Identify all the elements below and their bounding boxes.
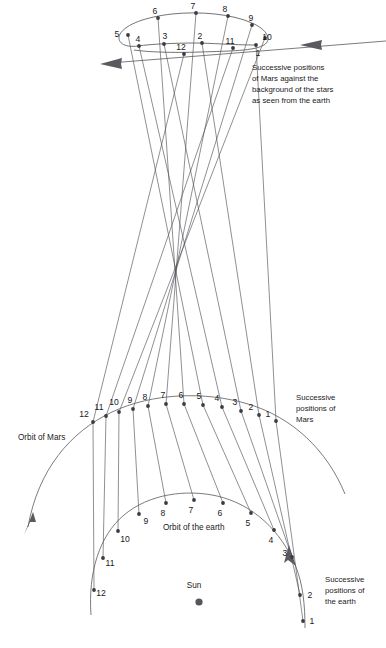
earth-orbit-arc bbox=[91, 493, 305, 628]
earth-caption-line2: positions of bbox=[325, 586, 365, 595]
earth-position-label-7: 7 bbox=[189, 505, 194, 515]
mars-position-dot-12 bbox=[91, 420, 95, 424]
mars-position-label-9: 9 bbox=[128, 395, 133, 405]
mars-position-dot-5 bbox=[201, 403, 205, 407]
mars-position-dot-3 bbox=[239, 409, 243, 413]
star-position-label-7: 7 bbox=[191, 1, 196, 11]
mars-position-label-6: 6 bbox=[179, 390, 184, 400]
star-position-label-10: 10 bbox=[262, 32, 272, 42]
earth-position-label-8: 8 bbox=[161, 508, 166, 518]
star-position-dot-7 bbox=[194, 11, 198, 15]
earth-caption-line1: Successive bbox=[325, 575, 364, 584]
earth-position-label-1: 1 bbox=[310, 616, 315, 626]
earth-position-dot-7 bbox=[192, 498, 196, 502]
star-position-label-5: 5 bbox=[115, 29, 120, 39]
star-line-right-arrow bbox=[300, 40, 322, 50]
mars-position-label-8: 8 bbox=[143, 392, 148, 402]
earth-caption: Successive positions of the earth bbox=[325, 575, 365, 606]
star-position-label-2: 2 bbox=[198, 31, 203, 41]
sight-line-5 bbox=[128, 35, 251, 513]
earth-position-label-4: 4 bbox=[269, 535, 274, 545]
star-position-label-11: 11 bbox=[226, 36, 235, 46]
mars-position-group: 123456789101112 bbox=[79, 390, 278, 424]
mars-position-dot-2 bbox=[257, 413, 261, 417]
sun-label: Sun bbox=[187, 581, 202, 590]
sight-line-4 bbox=[139, 46, 274, 530]
earth-position-group: 123456789101112 bbox=[92, 498, 315, 626]
earth-position-label-5: 5 bbox=[246, 518, 251, 528]
earth-position-label-12: 12 bbox=[96, 588, 106, 598]
mars-position-dot-8 bbox=[146, 404, 150, 408]
orbit-of-mars-label: Orbit of Mars bbox=[18, 433, 65, 442]
star-position-dot-6 bbox=[156, 16, 160, 20]
star-position-dot-11 bbox=[231, 46, 235, 50]
earth-caption-line3: the earth bbox=[325, 597, 356, 606]
earth-position-dot-6 bbox=[221, 501, 225, 505]
mars-position-dot-11 bbox=[104, 414, 108, 418]
sight-line-6 bbox=[158, 18, 223, 503]
star-position-dot-2 bbox=[200, 41, 204, 45]
star-position-dot-12 bbox=[182, 52, 186, 56]
mars-position-label-5: 5 bbox=[197, 391, 202, 401]
star-position-dot-4 bbox=[137, 44, 141, 48]
mars-position-dot-6 bbox=[182, 402, 186, 406]
earth-position-dot-1 bbox=[301, 619, 305, 623]
earth-position-label-6: 6 bbox=[218, 508, 223, 518]
earth-position-label-2: 2 bbox=[308, 590, 313, 600]
mars-position-label-11: 11 bbox=[95, 402, 104, 412]
mars-position-label-1: 1 bbox=[266, 409, 271, 419]
star-position-label-8: 8 bbox=[223, 4, 228, 14]
star-position-dot-3 bbox=[162, 42, 166, 46]
orbit-of-earth-label: Orbit of the earth bbox=[163, 523, 225, 532]
earth-position-dot-3 bbox=[290, 555, 294, 559]
mars-caption-line1: Successive bbox=[296, 393, 335, 402]
retrograde-motion-diagram: 123456789101112 123456789101112 12345678… bbox=[0, 0, 386, 648]
earth-position-label-10: 10 bbox=[120, 534, 130, 544]
mars-position-dot-1 bbox=[274, 419, 278, 423]
star-position-label-9: 9 bbox=[249, 13, 254, 23]
mars-position-label-3: 3 bbox=[233, 397, 238, 407]
star-position-label-12: 12 bbox=[176, 42, 186, 52]
earth-position-dot-11 bbox=[101, 556, 105, 560]
earth-position-dot-5 bbox=[249, 511, 253, 515]
star-position-dot-5 bbox=[126, 33, 130, 37]
stars-caption-line1: Successive positions bbox=[252, 63, 324, 72]
star-position-label-3: 3 bbox=[163, 31, 168, 41]
stars-caption: Successive positions of Mars against the… bbox=[252, 63, 334, 105]
mars-position-label-10: 10 bbox=[109, 397, 119, 407]
sight-line-3 bbox=[164, 44, 292, 557]
earth-position-label-9: 9 bbox=[144, 516, 149, 526]
star-position-dot-1 bbox=[254, 43, 258, 47]
stars-caption-line2: of Mars against the bbox=[252, 74, 318, 83]
earth-position-dot-4 bbox=[272, 528, 276, 532]
mars-position-dot-4 bbox=[220, 405, 224, 409]
mars-position-dot-7 bbox=[164, 402, 168, 406]
mars-position-label-7: 7 bbox=[161, 390, 166, 400]
mars-position-dot-9 bbox=[131, 407, 135, 411]
mars-position-label-4: 4 bbox=[215, 393, 220, 403]
mars-caption: Successive positions of Mars bbox=[296, 393, 336, 424]
mars-position-label-2: 2 bbox=[249, 402, 254, 412]
stars-caption-line3: background of the stars bbox=[252, 85, 334, 94]
star-position-label-1: 1 bbox=[256, 48, 261, 58]
mars-position-label-12: 12 bbox=[79, 409, 89, 419]
star-line-left-arrow bbox=[100, 58, 122, 69]
mars-caption-line2: positions of bbox=[296, 404, 336, 413]
sun-marker bbox=[195, 598, 202, 605]
mars-position-dot-10 bbox=[117, 410, 121, 414]
star-position-label-4: 4 bbox=[136, 34, 141, 44]
stars-caption-line4: as seen from the earth bbox=[252, 96, 330, 105]
mars-caption-line3: Mars bbox=[296, 415, 313, 424]
sight-line-1 bbox=[256, 45, 303, 621]
star-position-dot-9 bbox=[250, 23, 254, 27]
earth-position-dot-9 bbox=[137, 512, 141, 516]
earth-position-dot-2 bbox=[298, 593, 302, 597]
earth-position-label-11: 11 bbox=[106, 558, 115, 568]
sight-line-7 bbox=[166, 13, 196, 500]
star-position-dot-8 bbox=[226, 14, 230, 18]
earth-position-dot-8 bbox=[164, 501, 168, 505]
earth-position-dot-10 bbox=[116, 529, 120, 533]
star-position-label-6: 6 bbox=[153, 6, 158, 16]
earth-position-label-3: 3 bbox=[283, 548, 288, 558]
